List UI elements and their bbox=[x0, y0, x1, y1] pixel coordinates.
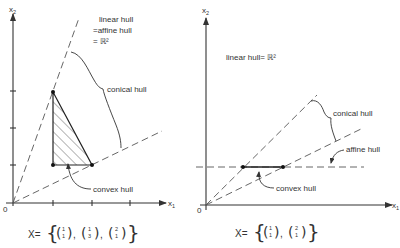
svg-text:2: 2 bbox=[115, 226, 118, 232]
left-point-1-3 bbox=[51, 90, 55, 94]
right-convex-hull-arrow bbox=[259, 172, 274, 188]
left-convex-hull-label: convex hull bbox=[93, 185, 133, 194]
left-affine-hull-label: =affine hull bbox=[93, 26, 132, 35]
svg-text:,: , bbox=[280, 228, 283, 239]
left-point-2-1 bbox=[90, 163, 94, 167]
right-x1-label: x1 bbox=[392, 201, 399, 211]
svg-text:): ) bbox=[274, 224, 279, 240]
right-origin-label: 0 bbox=[197, 206, 202, 215]
svg-text:X=: X= bbox=[28, 229, 41, 240]
svg-text:1: 1 bbox=[269, 232, 272, 238]
right-affine-hull-label: affine hull bbox=[346, 145, 380, 154]
right-conical-hull-brace bbox=[311, 101, 336, 141]
right-x2-label: x2 bbox=[202, 6, 209, 16]
svg-text:2: 2 bbox=[295, 225, 298, 231]
svg-text:(: ( bbox=[56, 225, 61, 241]
left-convex-hull-arrow bbox=[68, 164, 91, 189]
svg-text:X=: X= bbox=[235, 228, 248, 239]
left-set-definition: X= { ( 1 1 ) , ( 1 3 ) , ( 2 1 ) } bbox=[28, 221, 140, 245]
right-conical-hull-label: conical hull bbox=[333, 109, 373, 118]
svg-text:1: 1 bbox=[269, 225, 272, 231]
hulls-diagram: x2 x1 0 linear hull =affine hull = ℝ² co… bbox=[0, 0, 400, 248]
svg-text:1: 1 bbox=[88, 226, 91, 232]
svg-text:1: 1 bbox=[62, 226, 65, 232]
right-panel: x2 x1 0 linear hull= ℝ² conical hull aff… bbox=[196, 6, 399, 244]
left-convex-hull-triangle bbox=[53, 92, 92, 165]
right-point-2-1 bbox=[281, 165, 285, 169]
right-linear-hull-label: linear hull= ℝ² bbox=[226, 53, 276, 62]
svg-text:1: 1 bbox=[295, 232, 298, 238]
svg-text:3: 3 bbox=[88, 233, 91, 239]
svg-text:): ) bbox=[301, 224, 306, 240]
svg-text:(: ( bbox=[108, 225, 113, 241]
left-panel: x2 x1 0 linear hull =affine hull = ℝ² co… bbox=[3, 5, 175, 245]
left-r2-label: = ℝ² bbox=[93, 37, 109, 46]
svg-text:}: } bbox=[307, 220, 320, 244]
right-affine-hull-arrow bbox=[331, 150, 344, 163]
svg-text:1: 1 bbox=[62, 233, 65, 239]
svg-text:,: , bbox=[73, 229, 76, 240]
right-set-definition: X= { ( 1 1 ) , ( 2 1 ) } bbox=[235, 220, 320, 244]
svg-text:(: ( bbox=[263, 224, 268, 240]
svg-text:): ) bbox=[67, 225, 72, 241]
svg-text:): ) bbox=[94, 225, 99, 241]
left-origin-label: 0 bbox=[3, 205, 8, 214]
svg-text:(: ( bbox=[288, 224, 293, 240]
left-x2-label: x2 bbox=[9, 5, 16, 15]
left-conical-hull-brace bbox=[71, 52, 121, 148]
svg-text:1: 1 bbox=[115, 233, 118, 239]
svg-text:): ) bbox=[121, 225, 126, 241]
left-cone-ray-lower bbox=[13, 131, 162, 203]
svg-text:}: } bbox=[127, 221, 140, 245]
left-point-1-1 bbox=[51, 163, 55, 167]
left-cone-ray-upper bbox=[13, 18, 79, 203]
svg-text:,: , bbox=[100, 229, 103, 240]
right-point-1-1 bbox=[241, 165, 245, 169]
right-convex-hull-label: convex hull bbox=[276, 184, 316, 193]
left-conical-hull-label: conical hull bbox=[107, 85, 147, 94]
left-linear-hull-label: linear hull bbox=[99, 15, 133, 24]
svg-text:(: ( bbox=[81, 225, 86, 241]
left-x1-label: x1 bbox=[168, 199, 175, 209]
